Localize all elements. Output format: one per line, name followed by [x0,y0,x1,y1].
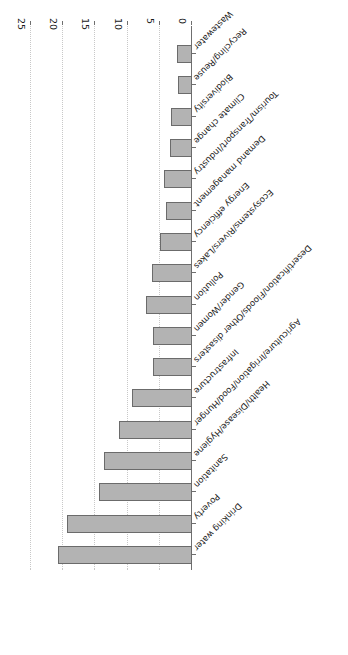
category-label: Poverty [192,492,222,522]
axis-tick-label: 5 [145,18,156,24]
bar [104,452,192,470]
axis-tick-label: 10 [113,18,124,30]
category-tick-mark [192,491,196,492]
category-tick-mark [192,241,196,242]
bar [99,483,192,501]
category-tick-mark [192,147,196,148]
category-tick-mark [192,335,196,336]
bar [153,358,192,376]
bar [171,108,192,126]
bar [166,202,192,220]
bar [160,233,192,251]
bar [152,264,192,282]
category-tick-mark [192,116,196,117]
category-tick-mark [192,272,196,273]
bar [146,296,192,314]
axis-tick-label: 0 [177,18,188,24]
bar [58,546,192,564]
category-tick-mark [192,178,196,179]
bar [67,515,192,533]
category-tick-mark [192,554,196,555]
bar [178,77,192,95]
axis-tick-mark [127,21,128,25]
axis-tick-mark [94,21,95,25]
gridline [62,26,63,570]
gridline [94,26,95,570]
bar [177,45,192,63]
gridline [30,26,31,570]
axis-tick-mark [159,21,160,25]
category-tick-mark [192,53,196,54]
category-tick-mark [192,304,196,305]
axis-tick-mark [191,21,192,25]
category-tick-mark [192,210,196,211]
axis-tick-mark [30,21,31,25]
category-tick-mark [192,85,196,86]
axis-tick-label: 20 [48,18,59,30]
bar [164,170,192,188]
chart-figure: 0510152025 Drinking waterPovertySanitati… [0,0,348,655]
bar [119,421,192,439]
category-label: Energy efficiency [192,181,251,240]
bar [170,139,192,157]
category-tick-mark [192,429,196,430]
axis-tick-label: 25 [16,18,27,30]
category-tick-mark [192,366,196,367]
bar [132,390,192,408]
category-tick-mark [192,460,196,461]
category-tick-mark [192,523,196,524]
axis-tick-label: 15 [80,18,91,30]
category-label: Desertification/Floods/Other disasters [192,243,314,365]
category-tick-mark [192,398,196,399]
bar [153,327,192,345]
axis-tick-mark [62,21,63,25]
